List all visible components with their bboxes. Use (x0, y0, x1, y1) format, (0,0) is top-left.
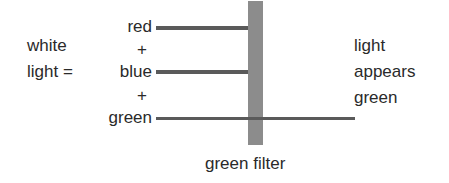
filter-label: green filter (205, 155, 285, 172)
red-ray (156, 26, 248, 30)
white-label: white (27, 37, 67, 54)
plus-sign: + (137, 41, 147, 58)
result-line1: light (354, 37, 385, 54)
green-filter (248, 1, 263, 145)
plus-sign: + (137, 87, 147, 104)
green-label: green (109, 109, 152, 126)
light-equals-label: light = (27, 63, 73, 80)
blue-ray (156, 70, 248, 74)
result-line3: green (354, 89, 397, 106)
blue-label: blue (120, 63, 152, 80)
green-ray (156, 117, 355, 120)
color-filter-diagram: white light = red + blue + green green f… (0, 0, 449, 183)
red-label: red (127, 18, 152, 35)
result-line2: appears (354, 63, 415, 80)
